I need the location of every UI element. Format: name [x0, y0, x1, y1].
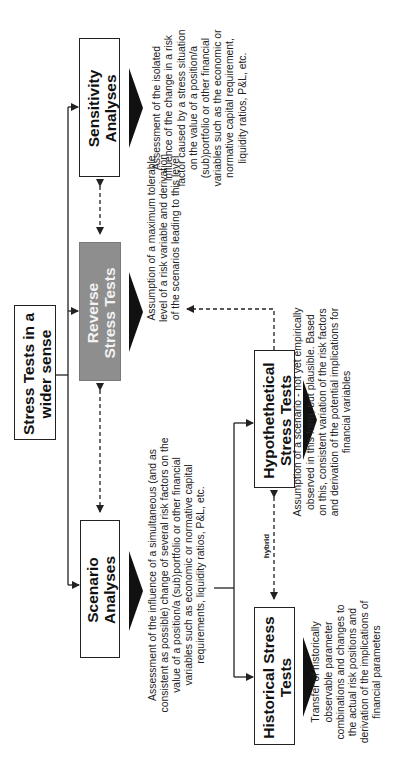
root-node-label: Stress Tests in a wider sense — [15, 306, 57, 441]
scenario-description: Assessment of the influence of a simulta… — [150, 435, 204, 715]
scenario-analyses-label: Scenario Analyses — [81, 522, 121, 658]
root-node: Stress Tests in a wider sense — [14, 305, 56, 440]
hypothetical-stress-tests-node: Hypothethetical Stress Tests — [254, 350, 295, 488]
sensitivity-analyses-node: Sensitivity Analyses — [79, 38, 120, 177]
reverse-arrow-icon — [129, 272, 144, 352]
historical-stress-tests-node: Historical Stress Tests — [254, 607, 295, 745]
hybrid-label: hybrid — [260, 528, 272, 564]
historical-stress-tests-label: Historical Stress Tests — [255, 609, 296, 745]
hypothetical-description: Assumption of a scenario - not yet empir… — [291, 307, 355, 517]
reverse-description: Assumption of a maximum tolerable level … — [143, 152, 185, 324]
reverse-stress-tests-label: Reverse Stress Tests — [80, 258, 122, 368]
reverse-stress-tests-node: Reverse Stress Tests — [79, 242, 121, 381]
sensitivity-arrow-icon — [129, 68, 144, 148]
historical-description: Transfer of historically observable para… — [311, 597, 383, 747]
hypothetical-stress-tests-label: Hypothethetical Stress Tests — [255, 352, 296, 488]
scenario-arrow-icon — [129, 551, 144, 631]
sensitivity-analyses-label: Sensitivity Analyses — [80, 54, 121, 164]
scenario-analyses-node: Scenario Analyses — [80, 520, 120, 658]
